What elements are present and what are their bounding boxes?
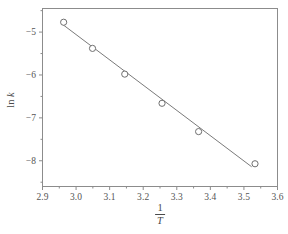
x-tick-label: 2.9 [36,192,48,202]
arrhenius-plot-figure: 2.93.03.13.23.33.43.53.6 −5−6−7−8 ln k 1… [0,0,288,234]
data-point-marker [159,100,165,106]
x-tick-label: 3.6 [271,192,283,202]
y-tick-label: −5 [18,27,36,37]
data-point-marker [196,128,202,134]
y-tick-label: −7 [18,113,36,123]
y-tick-label: −6 [18,70,36,80]
x-tick-label: 3.0 [70,192,82,202]
x-axis-label-denominator: T [155,216,165,227]
x-axis-label-numerator: 1 [155,203,165,214]
x-tick-label: 3.2 [137,192,149,202]
x-axis-label-fraction: 1 T [155,203,165,226]
data-point-marker [252,161,258,167]
x-tick-label: 3.3 [171,192,183,202]
x-tick-label: 3.1 [104,192,116,202]
data-point-marker [89,45,95,51]
x-axis-label: 1 T [155,203,165,226]
x-tick-label: 3.5 [238,192,250,202]
data-point-marker [61,19,67,25]
x-tick-label: 3.4 [204,192,216,202]
y-axis-label: ln k [5,92,16,107]
data-point-marker [122,71,128,77]
y-axis-label-prefix: ln [5,97,16,108]
y-tick-label: −8 [18,156,36,166]
y-axis-label-symbol: k [5,92,16,97]
